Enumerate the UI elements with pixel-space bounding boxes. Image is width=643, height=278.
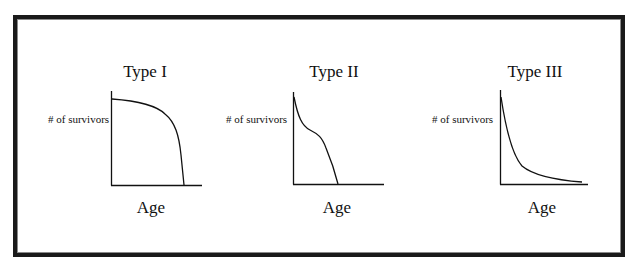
plot-type-1 [111, 91, 202, 186]
curve-type-1 [112, 99, 184, 185]
plot-type-3 [500, 90, 588, 185]
curve-type-3 [501, 97, 582, 182]
plot-type-2 [293, 92, 384, 185]
survivorship-curves [0, 0, 643, 278]
curve-type-2 [294, 97, 338, 184]
